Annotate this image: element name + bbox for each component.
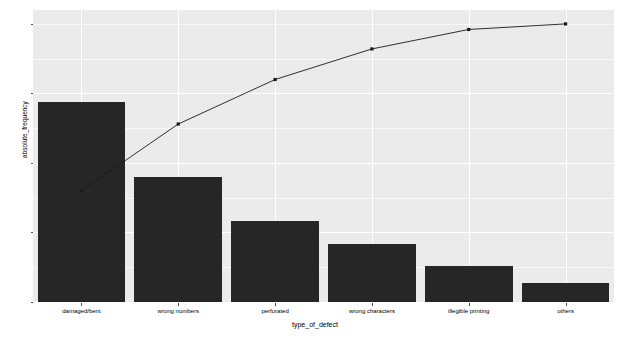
cumulative-line-series [33,10,614,302]
x-axis-tick-label: wrong characters [349,308,395,315]
x-axis-tick-mark [81,303,82,306]
y-axis-title: absolute_frequency [21,60,28,200]
cumulative-point [370,47,373,50]
pareto-chart: 1007550250 absolute_frequency damaged/be… [0,0,630,338]
cumulative-point [177,122,180,125]
x-axis-title: type_of_defect [0,321,630,328]
y-axis-tick-mark [31,163,34,164]
x-axis-tick-label: others [557,308,574,315]
y-axis-tick-mark [31,93,34,94]
x-axis-tick-mark [469,303,470,306]
y-axis-tick-mark [31,232,34,233]
x-axis-tick-mark [566,303,567,306]
y-axis-tick-mark [31,302,34,303]
cumulative-point [273,78,276,81]
x-axis-tick-label: damaged/bent [62,308,100,315]
x-axis-tick-label: perforated [261,308,288,315]
y-axis-tick-mark [31,24,34,25]
plot-panel [33,10,614,302]
x-axis-tick-label: wrong numbers [158,308,199,315]
x-axis-tick-mark [178,303,179,306]
x-axis-tick-mark [275,303,276,306]
cumulative-point [564,22,567,25]
cumulative-point [467,28,470,31]
cumulative-line [81,24,565,191]
cumulative-point [80,189,83,192]
x-axis-tick-mark [372,303,373,306]
x-axis-tick-label: illegible printing [448,308,489,315]
